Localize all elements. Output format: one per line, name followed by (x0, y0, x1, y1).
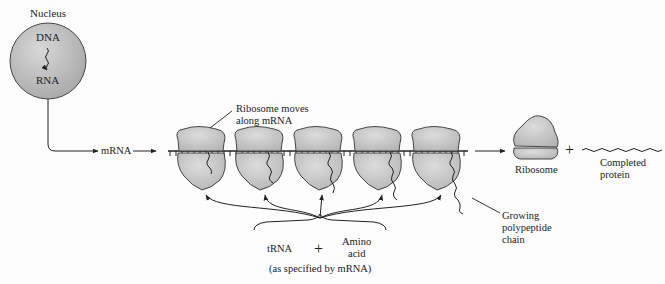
specified-by-mrna-note: (as specified by mRNA) (269, 263, 371, 275)
polypeptide-label-3: chain (502, 234, 525, 246)
rna-label: RNA (36, 74, 59, 86)
trna-delivery-arrows (206, 195, 441, 218)
ribosome-3 (294, 127, 342, 194)
mrna-label: mRNA (101, 145, 131, 157)
plus-sign-inputs: + (314, 241, 323, 257)
dna-label: DNA (36, 31, 60, 43)
translation-diagram: Nucleus DNA RNA mRNA Ribosome moves alon… (0, 0, 665, 284)
amino-acid-label-2: acid (348, 248, 366, 260)
completed-protein-label-1: Completed (600, 157, 646, 169)
plus-sign-products: + (565, 142, 574, 158)
ribosome-5 (412, 127, 463, 215)
polypeptide-callout-line (472, 198, 500, 213)
ribosome-callout-line (210, 111, 232, 128)
free-ribosome (514, 116, 559, 159)
ribosome-callout-line-1: Ribosome moves (236, 103, 309, 115)
ribosome-2 (235, 127, 283, 191)
ribosome-4 (353, 127, 401, 201)
free-ribosome-label: Ribosome (515, 164, 558, 176)
nucleus-label: Nucleus (30, 7, 66, 19)
completed-protein-label-2: protein (600, 169, 630, 181)
amino-acid-label-1: Amino (342, 236, 371, 248)
completed-protein-strand (582, 149, 662, 152)
polypeptide-label-1: Growing (502, 210, 539, 222)
trna-label: tRNA (267, 243, 292, 255)
nucleus-to-mrna-arrow (48, 99, 156, 151)
polypeptide-label-2: polypeptide (502, 222, 552, 234)
ribosome-1 (177, 127, 225, 191)
ribosome-callout-line-2: along mRNA (236, 115, 292, 127)
